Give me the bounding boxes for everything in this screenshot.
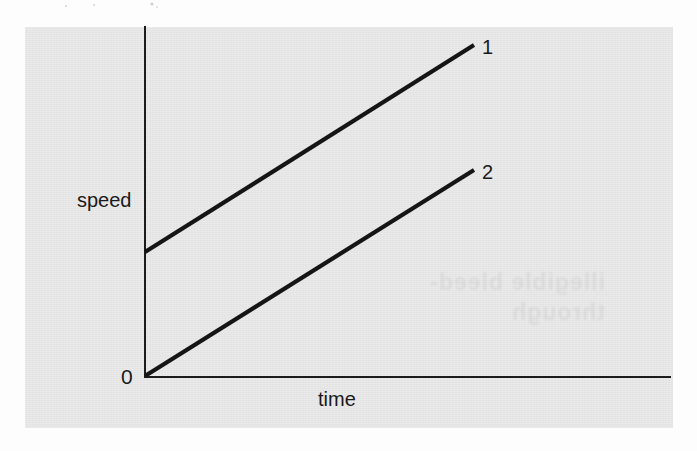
chart-figure-frame: illegible bleed-through speed time 0 1 2	[25, 27, 673, 428]
series-label-1: 1	[482, 37, 493, 57]
origin-label: 0	[121, 366, 133, 387]
x-axis-line	[144, 376, 671, 378]
series-line-1	[145, 45, 474, 252]
ghost-watermark-text: illegible bleed-through	[370, 267, 605, 347]
series-label-2: 2	[482, 162, 493, 182]
y-axis-line	[144, 26, 146, 378]
page-canvas: illegible bleed-through speed time 0 1 2	[0, 0, 697, 451]
series-line-2	[145, 170, 474, 376]
scan-artifact	[60, 0, 190, 14]
x-axis-label: time	[318, 389, 356, 409]
y-axis-label: speed	[77, 190, 132, 210]
